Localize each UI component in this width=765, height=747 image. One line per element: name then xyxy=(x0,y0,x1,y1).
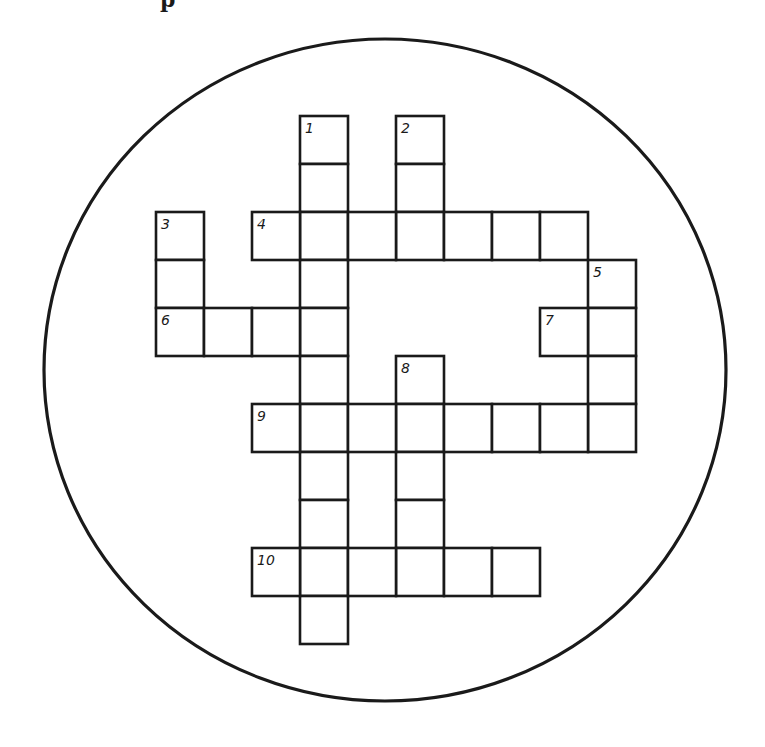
crossword-cell[interactable] xyxy=(396,212,444,260)
crossword-cell[interactable] xyxy=(252,212,300,260)
crossword-cell[interactable] xyxy=(156,212,204,260)
crossword-cell[interactable] xyxy=(300,548,348,596)
crossword-cell[interactable] xyxy=(588,356,636,404)
crossword-cell[interactable] xyxy=(300,452,348,500)
crossword-cell[interactable] xyxy=(348,548,396,596)
crossword-cell[interactable] xyxy=(396,164,444,212)
crossword-cell[interactable] xyxy=(588,404,636,452)
crossword-grid xyxy=(156,116,636,644)
crossword-cell[interactable] xyxy=(396,404,444,452)
crossword-cell[interactable] xyxy=(348,212,396,260)
crossword-cell[interactable] xyxy=(396,116,444,164)
crossword-cell[interactable] xyxy=(588,260,636,308)
crossword-cell[interactable] xyxy=(300,260,348,308)
crossword-cell[interactable] xyxy=(156,308,204,356)
crossword-cell[interactable] xyxy=(300,596,348,644)
crossword-cell[interactable] xyxy=(300,308,348,356)
crossword-cell[interactable] xyxy=(540,308,588,356)
crossword-cell[interactable] xyxy=(300,164,348,212)
crossword-cell[interactable] xyxy=(252,548,300,596)
crossword-cell[interactable] xyxy=(300,116,348,164)
crossword-cell[interactable] xyxy=(396,452,444,500)
crossword-cell[interactable] xyxy=(396,548,444,596)
crossword-puzzle: 12345678910 xyxy=(0,0,765,747)
crossword-cell[interactable] xyxy=(444,548,492,596)
crossword-cell[interactable] xyxy=(492,212,540,260)
crossword-cell[interactable] xyxy=(396,500,444,548)
crossword-cell[interactable] xyxy=(300,404,348,452)
crossword-cell[interactable] xyxy=(156,260,204,308)
crossword-cell[interactable] xyxy=(492,404,540,452)
crossword-cell[interactable] xyxy=(444,212,492,260)
crossword-cell[interactable] xyxy=(396,356,444,404)
crossword-cell[interactable] xyxy=(252,308,300,356)
crossword-cell[interactable] xyxy=(204,308,252,356)
crossword-cell[interactable] xyxy=(540,212,588,260)
crossword-cell[interactable] xyxy=(444,404,492,452)
crossword-cell[interactable] xyxy=(300,356,348,404)
crossword-cell[interactable] xyxy=(492,548,540,596)
crossword-cell[interactable] xyxy=(348,404,396,452)
crossword-cell[interactable] xyxy=(300,500,348,548)
crossword-cell[interactable] xyxy=(540,404,588,452)
crossword-cell[interactable] xyxy=(588,308,636,356)
crossword-cell[interactable] xyxy=(252,404,300,452)
crossword-cell[interactable] xyxy=(300,212,348,260)
